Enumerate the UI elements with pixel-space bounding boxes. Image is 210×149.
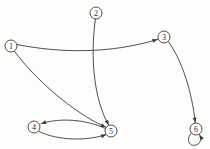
graph-node-5[interactable]: 5 [105, 125, 117, 137]
edge-4-to-5 [39, 131, 106, 139]
arrowhead-1-to-3 [152, 37, 158, 42]
node-label-3: 3 [162, 33, 166, 42]
directed-graph-diagram: 123456 [0, 0, 210, 149]
node-label-4: 4 [32, 123, 36, 132]
graph-node-3[interactable]: 3 [158, 31, 170, 43]
graph-node-2[interactable]: 2 [90, 7, 102, 19]
graph-node-4[interactable]: 4 [28, 121, 40, 133]
node-label-5: 5 [109, 127, 113, 136]
edge-5-to-4 [41, 120, 105, 128]
arrowhead-5-to-4 [40, 120, 46, 126]
edge-1-to-3 [17, 39, 157, 50]
graph-node-6[interactable]: 6 [190, 123, 202, 135]
graph-node-1[interactable]: 1 [5, 40, 17, 52]
node-label-1: 1 [9, 42, 13, 51]
nodes-layer: 123456 [5, 7, 202, 137]
arrowheads-layer [40, 37, 204, 140]
edge-2-to-5 [93, 19, 109, 125]
edge-1-to-5 [15, 51, 106, 127]
node-label-6: 6 [194, 125, 198, 134]
node-label-2: 2 [94, 9, 98, 18]
edge-3-to-6 [168, 42, 195, 123]
